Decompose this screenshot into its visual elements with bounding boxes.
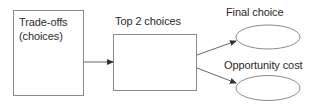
final-choice-ellipse xyxy=(236,25,300,49)
tradeoffs-label-line1: Trade-offs xyxy=(19,16,68,29)
arrow-top2-to-final-choice xyxy=(197,41,236,55)
top2-choices-label: Top 2 choices xyxy=(115,15,181,28)
diagram-canvas: Trade-offs (choices) Top 2 choices Final… xyxy=(0,0,312,108)
top2-choices-box xyxy=(114,35,197,91)
opportunity-cost-label: Opportunity cost xyxy=(224,59,303,72)
tradeoffs-label-line2: (choices) xyxy=(19,30,63,43)
final-choice-label: Final choice xyxy=(226,6,284,19)
opportunity-cost-ellipse xyxy=(236,76,300,101)
